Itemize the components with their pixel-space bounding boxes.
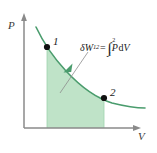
annotation-arrowhead-icon [64,64,73,73]
pv-diagram-figure: P V 1 2 δW12=∫21PdV [0,0,157,153]
p-axis-label: P [8,20,15,31]
state-point-2 [101,95,107,101]
w-symbol: W [85,43,93,53]
state-point-1 [44,44,50,50]
equals-symbol: = [100,43,106,53]
differential-volume-symbol: V [123,43,129,53]
v-axis-label: V [138,131,145,142]
integral-symbol-group: ∫21 [107,41,111,54]
pv-diagram-canvas [0,0,157,153]
integral-lower-limit: 1 [108,51,111,57]
state-1-label: 1 [53,36,59,47]
work-equation-annotation: δW12=∫21PdV [80,41,130,54]
pressure-symbol: P [112,43,118,53]
state-2-label: 2 [110,87,116,98]
p-axis-arrowhead [21,13,27,21]
w-subscript: 12 [93,44,99,51]
integral-upper-limit: 2 [112,37,115,43]
